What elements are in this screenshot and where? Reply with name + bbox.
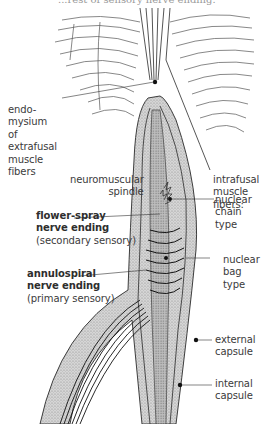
label-nuclear-chain: nuclear chain type <box>215 194 252 231</box>
extrafusal-fibers-left <box>55 16 140 116</box>
label-flower-spray: flower-spray nerve ending (secondary sen… <box>36 210 136 247</box>
label-nuclear-bag: nuclear bag type <box>223 254 260 291</box>
internal-capsule-marker <box>178 383 182 387</box>
external-capsule-marker <box>194 338 198 342</box>
extrafusal-fibers-right <box>170 15 254 132</box>
label-neuromuscular-spindle: neuromuscular spindle <box>70 174 144 199</box>
label-internal-capsule: internal capsule <box>215 378 253 403</box>
label-external-capsule: external capsule <box>215 334 255 359</box>
label-annulospiral: annulospiral nerve ending (primary senso… <box>27 268 114 305</box>
label-endomysium: endo- mysium of extrafusal muscle fibers <box>8 104 57 178</box>
external-capsule-shape <box>40 96 197 424</box>
